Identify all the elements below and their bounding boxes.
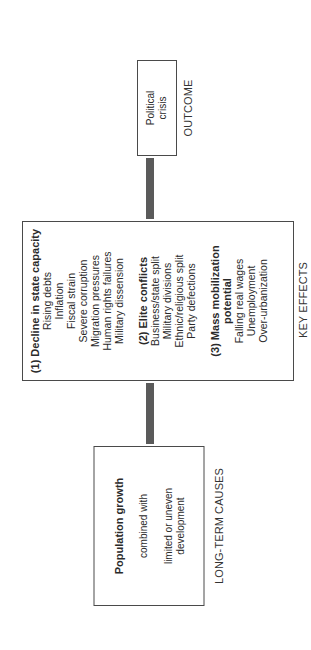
long-term-causes-box: Population growth combined with limited … [93, 446, 204, 606]
effect-item: Business/state split [149, 256, 161, 346]
effect-item: Fiscal strain [65, 273, 77, 329]
key-effects-box: (1) Decline in state capacity Rising deb… [22, 221, 294, 381]
causes-connector-text: combined with [137, 494, 149, 558]
long-term-causes-label: LONG-TERM CAUSES [213, 468, 225, 584]
effect-item: Severe corruption [77, 260, 89, 343]
section-heading-mass-mobilization: (3) Mass mobilization potential [209, 222, 233, 380]
effect-item: Inflation [53, 283, 65, 320]
effect-item: Over-urbanization [257, 259, 269, 342]
effect-item: Ethnic/religious split [173, 255, 185, 348]
effect-item: Rising debts [41, 272, 53, 330]
outcome-line-2: crisis [157, 97, 169, 120]
causes-tail-line-1: limited or uneven [162, 488, 174, 564]
effect-item: Military divisions [161, 263, 173, 339]
section-heading-state-capacity: (1) Decline in state capacity [29, 229, 41, 373]
causes-heading: Population growth [112, 478, 124, 575]
connector-effects-to-outcome [146, 158, 154, 219]
effect-item: Human rights failures [101, 251, 113, 350]
effect-item: Falling real wages [233, 259, 245, 344]
effect-item: Military dissension [113, 258, 125, 344]
causes-tail-line-2: development [174, 497, 186, 554]
effect-item: Party defections [185, 263, 197, 338]
effect-item: Unemployment [245, 266, 257, 337]
outcome-line-1: Political [145, 91, 157, 125]
connector-causes-to-effects [146, 383, 154, 444]
key-effects-label: KEY EFFECTS [297, 262, 309, 338]
outcome-box: Political crisis [137, 60, 177, 156]
effect-item: Migration pressures [89, 255, 101, 347]
outcome-label: OUTCOME [182, 80, 194, 137]
section-heading-elite-conflicts: (2) Elite conflicts [137, 257, 149, 345]
